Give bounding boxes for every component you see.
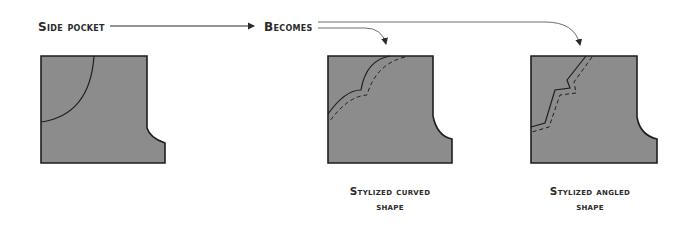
angled-caption-line1: Stylized angled [520, 184, 660, 199]
curved-pocket-shape [328, 56, 452, 163]
curved-caption-line1: Stylized curved [320, 184, 460, 199]
arrow-to-angled [318, 22, 580, 45]
arrow-to-curved [318, 28, 386, 44]
curved-caption-line2: shape [320, 199, 460, 214]
side-pocket-shape [41, 56, 165, 163]
angled-pocket-shape [531, 56, 657, 163]
angled-shape-caption-block: Stylized angled shape [520, 184, 660, 214]
angled-caption-line2: shape [520, 199, 660, 214]
curved-shape-caption-block: Stylized curved shape [320, 184, 460, 214]
